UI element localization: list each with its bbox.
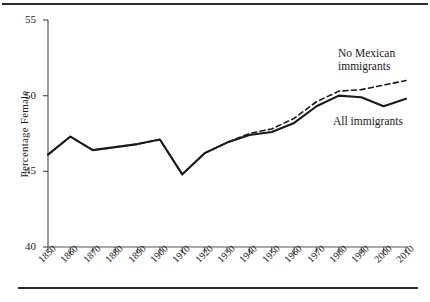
annotation-no-mexican-line1: No Mexican [338, 47, 395, 60]
figure-container: Percentage Female 40455055 1850186018701… [0, 0, 430, 302]
y-tick-label-45: 45 [10, 164, 36, 176]
annotation-no-mexican-line2: immigrants [338, 60, 395, 73]
y-tick-label-40: 40 [10, 240, 36, 252]
y-tick-label-55: 55 [10, 13, 36, 25]
series-all-immigrants [48, 96, 406, 175]
annotation-no-mexican-immigrants: No Mexican immigrants [338, 47, 395, 73]
y-tick-label-50: 50 [10, 89, 36, 101]
annotation-all-immigrants: All immigrants [333, 115, 403, 128]
